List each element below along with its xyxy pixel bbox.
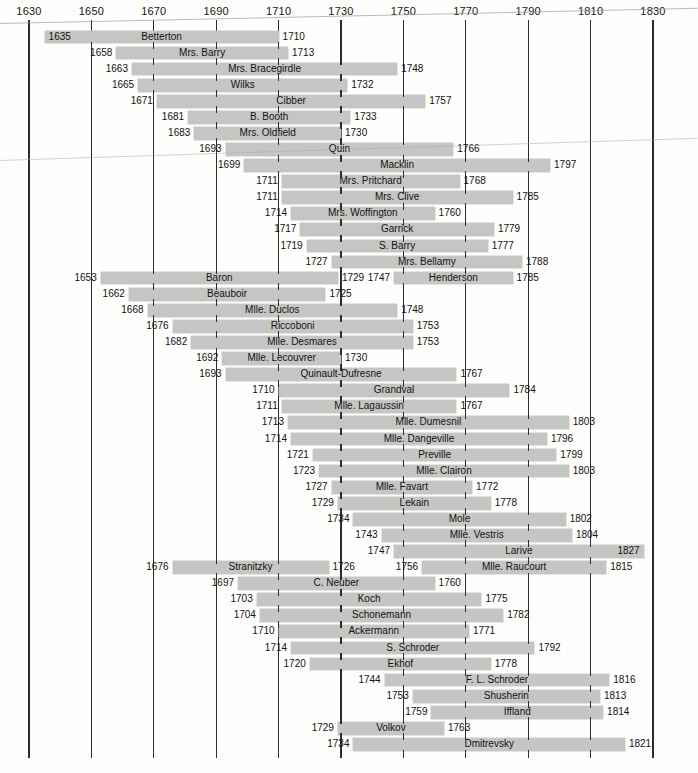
bar-name-label: Cibber [157,95,425,108]
end-year-label: 1767 [460,368,510,381]
bar-name-label: Mlle. Vestris [382,529,572,542]
end-year-label: 1730 [345,352,395,365]
end-year-label: 1821 [629,738,679,751]
start-year-label: 1711 [228,175,278,188]
lifespan-bar: Mrs. Barry [116,47,288,60]
start-year-label: 1711 [228,191,278,204]
end-year-label: 1710 [283,31,333,44]
bar-name-label: Iffland [431,706,603,719]
end-year-label: 1778 [495,658,545,671]
gridline-tick-overlay [590,42,591,754]
start-year-label: 1743 [328,529,378,542]
bar-name-label: Mrs. Pritchard [282,175,460,188]
lifespan-bar: Mrs. Bracegirdle [132,63,397,76]
end-year-label: 1804 [576,529,626,542]
end-year-label: 1713 [292,47,342,60]
lifespan-bar: Cibber [157,95,425,108]
lifespan-bar: C. Neuber [238,577,435,590]
end-year-label: 1803 [573,416,623,429]
end-year-label: 1778 [495,497,545,510]
start-year-label: 1727 [278,481,328,494]
bar-name-label: Ackermann [279,625,469,638]
end-year-label: 1775 [485,593,535,606]
axis-tick-label: 1790 [506,5,550,17]
start-year-label: 1717 [246,223,296,236]
bar-name-label: Mlle. Clairon [319,465,569,478]
lifespan-bar: F. L. Schroder [385,674,610,687]
start-year-label: 1693 [172,368,222,381]
bar-name-label: Ekhof [310,658,491,671]
lifespan-bar: Iffland [431,706,603,719]
bar-name-label: Shusherin [413,690,600,703]
axis-tick-label: 1650 [69,5,113,17]
end-year-label: 1777 [492,240,542,253]
end-year-label: 1757 [429,95,479,108]
end-year-label: 1803 [573,465,623,478]
bar-name-label: Stranitzky [173,561,329,574]
bar-name-label: Schonemann [260,609,503,622]
start-year-label: 1729 [284,722,334,735]
bar-name-label: Mrs. Woffington [291,207,435,220]
bar-name-label: Macklin [244,159,550,172]
start-year-label: 1734 [299,738,349,751]
gridline-tick-overlay [91,42,92,754]
gridline-tick-overlay [403,42,404,754]
bar-name-label: Henderson [394,272,513,285]
lifespan-bar: Mlle. Vestris [382,529,572,542]
start-year-label: 1727 [278,256,328,269]
lifespan-bar: Mlle. Desmares [191,336,413,349]
end-year-label: 1725 [329,288,379,301]
start-year-label: 1710 [225,384,275,397]
lifespan-bar: Stranitzky [173,561,329,574]
gridline-tick-overlay [153,42,154,754]
start-year-label: 1699 [190,159,240,172]
bar-name-label: Mole [353,513,565,526]
start-year-label: 1714 [237,642,287,655]
start-year-label: 1662 [75,288,125,301]
lifespan-bar: Mrs. Pritchard [282,175,460,188]
lifespan-bar: Mole [353,513,565,526]
lifespan-bar: S. Schroder [291,642,534,655]
end-year-label: 1753 [417,320,467,333]
start-year-label: 1720 [256,658,306,671]
start-year-label: 1676 [119,320,169,333]
end-year-label: 1792 [538,642,588,655]
lifespan-bar: Ackermann [279,625,469,638]
bar-name-label: B. Booth [188,111,350,124]
end-year-label: 1813 [604,690,654,703]
lifespan-bar: Mlle. Dangeville [291,433,547,446]
end-year-label: 1796 [551,433,601,446]
start-year-label: 1703 [203,593,253,606]
bar-name-label: Koch [257,593,482,606]
end-year-label: 1760 [439,207,489,220]
bar-name-label: Mlle. Desmares [191,336,413,349]
lifespan-bar: B. Booth [188,111,350,124]
start-year-label: 1668 [94,304,144,317]
start-year-label: 1747 [340,545,390,558]
axis-tick-label: 1710 [257,5,301,17]
start-year-label: 1747 [340,272,390,285]
lifespan-bar: Lekain [338,497,491,510]
lifespan-bar: Mlle. Lecouvrer [222,352,341,365]
end-year-label: 1760 [439,577,489,590]
bar-name-label: S. Barry [307,240,488,253]
lifespan-bar: Ekhof [310,658,491,671]
start-year-label: 1729 [284,497,334,510]
end-year-label: 1782 [507,609,557,622]
start-year-label: 1658 [62,47,112,60]
end-year-label: 1730 [345,127,395,140]
bar-name-label: Mlle. Lagaussin [282,400,457,413]
end-year-label: 1799 [560,449,610,462]
lifespan-bar: Henderson [394,272,513,285]
bar-name-label: Wilks [138,79,347,92]
start-year-label: 1753 [359,690,409,703]
end-year-label: 1763 [448,722,498,735]
end-year-label: 1732 [351,79,401,92]
end-year-label: 1748 [401,63,451,76]
start-year-label: 1714 [237,433,287,446]
bar-name-label: Dmitrevsky [353,738,624,751]
bar-name-label: Preville [313,449,556,462]
end-year-label: 1779 [498,223,548,236]
axis-tick-label: 1770 [444,5,488,17]
end-year-label: 1797 [554,159,604,172]
